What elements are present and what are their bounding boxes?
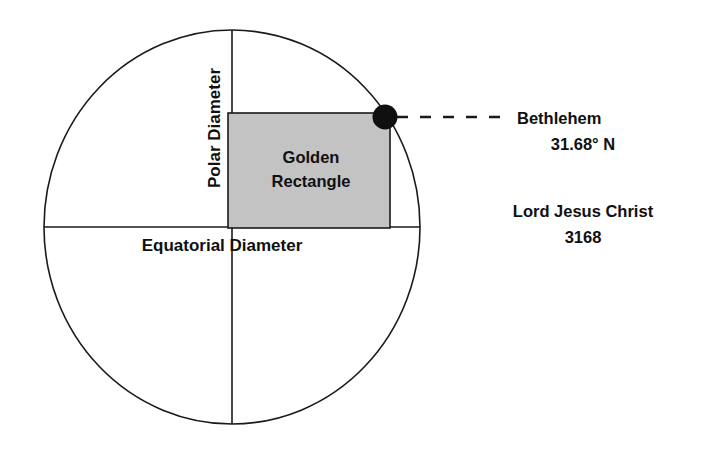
golden-rectangle-shape bbox=[228, 113, 390, 228]
polar-diameter-label: Polar Diameter bbox=[205, 68, 224, 188]
bethlehem-marker-dot bbox=[373, 105, 398, 130]
bethlehem-latitude-label: 31.68° N bbox=[551, 135, 615, 153]
annotation-label-line2: 3168 bbox=[565, 228, 602, 246]
annotation-label-line1: Lord Jesus Christ bbox=[513, 202, 654, 220]
golden-rectangle-label-line1: Golden bbox=[283, 148, 340, 166]
golden-rectangle-diagram: Polar Diameter Equatorial Diameter Golde… bbox=[0, 0, 723, 456]
figure-canvas: Polar Diameter Equatorial Diameter Golde… bbox=[0, 0, 723, 456]
golden-rectangle-label-line2: Rectangle bbox=[272, 172, 351, 190]
bethlehem-city-label: Bethlehem bbox=[517, 109, 601, 127]
equatorial-diameter-label: Equatorial Diameter bbox=[142, 236, 303, 255]
